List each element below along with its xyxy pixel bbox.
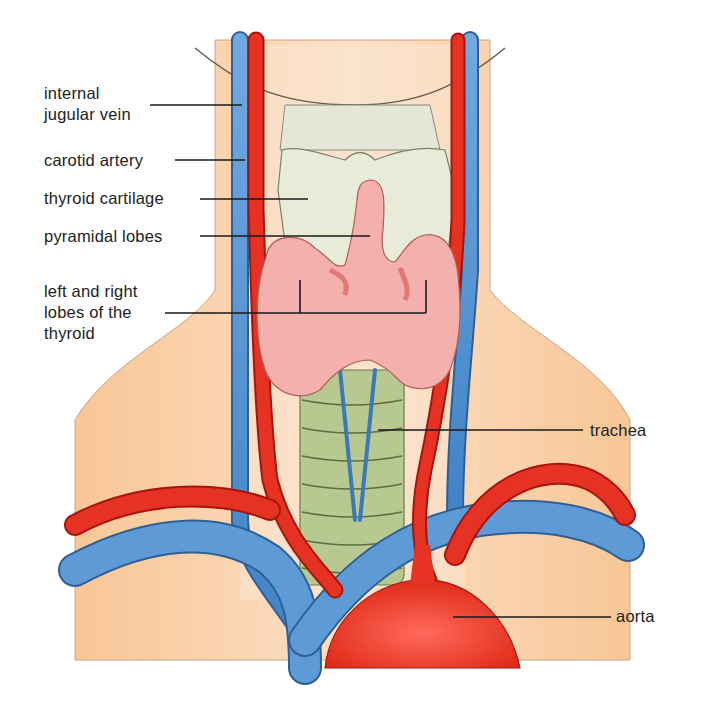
label-carotid-artery: carotid artery	[44, 150, 143, 171]
thyroid-diagram: internal jugular vein carotid artery thy…	[0, 0, 703, 708]
label-thyroid-cartilage: thyroid cartilage	[44, 188, 164, 209]
label-pyramidal-lobes: pyramidal lobes	[44, 226, 163, 247]
label-trachea: trachea	[590, 420, 646, 441]
label-thyroid-lobes: left and right lobes of the thyroid	[44, 281, 138, 344]
hyoid-region	[280, 105, 440, 150]
label-aorta: aorta	[616, 606, 655, 627]
label-internal-jugular-vein: internal jugular vein	[44, 83, 131, 125]
